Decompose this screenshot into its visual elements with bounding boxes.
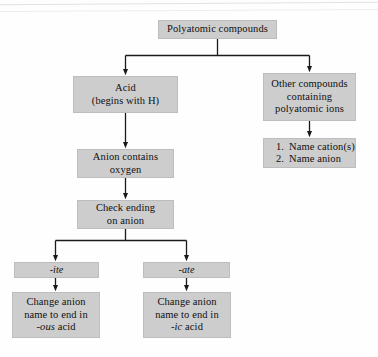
node-label-line1: Change anion [26, 296, 85, 308]
node-label-line3: polyatomic ions [275, 103, 344, 115]
node-suffix-ate[interactable]: -ate [143, 262, 230, 278]
suffix-rest: acid [182, 321, 203, 332]
step-number: 1. [276, 141, 289, 153]
flowchart-canvas: Polyatomic compounds Acid (begins with H… [0, 0, 378, 357]
suffix-text: -ic [171, 321, 182, 332]
node-label-line1: Other compounds [271, 78, 347, 90]
suffix-text: -ous [36, 321, 54, 332]
node-label-line1: Check ending [96, 202, 155, 214]
node-label-line3: -ic acid [171, 321, 203, 333]
step-number: 2. [276, 153, 289, 165]
node-label-line1: Acid [115, 82, 136, 94]
node-suffix-ite[interactable]: -ite [14, 262, 99, 278]
node-naming-steps[interactable]: 1.Name cation(s) 2.Name anion [263, 138, 356, 168]
node-check-ending[interactable]: Check ending on anion [77, 200, 174, 229]
node-label-line1: Anion contains [93, 151, 158, 163]
node-label-line2: oxygen [110, 164, 142, 176]
node-label-line1: Change anion [157, 296, 216, 308]
node-polyatomic-compounds[interactable]: Polyatomic compounds [158, 20, 277, 39]
node-label-line2: containing [287, 91, 332, 103]
node-change-to-ous-acid[interactable]: Change anion name to end in -ous acid [12, 292, 100, 338]
node-label-line2: on anion [107, 215, 144, 227]
suffix-rest: acid [55, 321, 76, 332]
node-label-line2: (begins with H) [92, 95, 159, 107]
node-label: Polyatomic compounds [167, 23, 268, 35]
step-text: Name cation(s) [289, 141, 355, 152]
node-label-line2: name to end in [155, 309, 219, 321]
node-anion-contains-oxygen[interactable]: Anion contains oxygen [77, 149, 174, 178]
node-other-compounds[interactable]: Other compounds containing polyatomic io… [263, 73, 356, 121]
node-label: -ate [179, 264, 195, 276]
node-change-to-ic-acid[interactable]: Change anion name to end in -ic acid [143, 292, 231, 338]
node-label-line2: name to end in [24, 309, 88, 321]
node-acid[interactable]: Acid (begins with H) [73, 76, 178, 113]
node-label-line3: -ous acid [36, 321, 75, 333]
step-item-1: 1.Name cation(s) [276, 141, 355, 153]
step-item-2: 2.Name anion [276, 153, 341, 165]
node-label: -ite [50, 264, 64, 276]
step-text: Name anion [289, 153, 341, 164]
